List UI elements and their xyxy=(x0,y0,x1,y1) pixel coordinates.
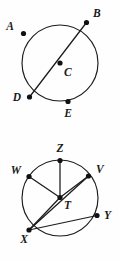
point-dot-e xyxy=(65,99,70,104)
point-label-c: C xyxy=(64,66,72,78)
chord-x-v xyxy=(29,176,89,230)
point-dot-d xyxy=(27,94,32,99)
point-dot-v xyxy=(86,173,91,178)
point-label-z: Z xyxy=(55,142,63,154)
point-dot-y xyxy=(94,213,99,218)
diameter-b-d xyxy=(30,23,87,98)
point-label-e: E xyxy=(63,107,72,119)
point-label-w: W xyxy=(11,164,22,176)
point-label-v: V xyxy=(96,163,105,175)
circle-diagram-t: ZWVTXY xyxy=(0,130,119,260)
point-dot-b xyxy=(84,20,89,25)
point-label-b: B xyxy=(92,7,101,19)
point-label-t: T xyxy=(64,199,72,211)
point-dot-c xyxy=(57,60,62,65)
point-dot-z xyxy=(57,158,62,163)
point-label-a: A xyxy=(5,20,14,32)
point-dot-w xyxy=(26,174,31,179)
circle-diagram-c: ABCDE xyxy=(0,0,119,130)
point-label-y: Y xyxy=(104,209,112,221)
point-label-x: X xyxy=(19,233,28,245)
radius-w-t xyxy=(29,177,60,198)
figure-sheet: ABCDE ZWVTXY xyxy=(0,0,119,260)
point-dot-x xyxy=(26,227,31,232)
point-label-d: D xyxy=(12,91,22,103)
point-dot-t xyxy=(57,195,62,200)
point-dot-a xyxy=(21,31,26,36)
chord-x-y xyxy=(29,216,97,231)
